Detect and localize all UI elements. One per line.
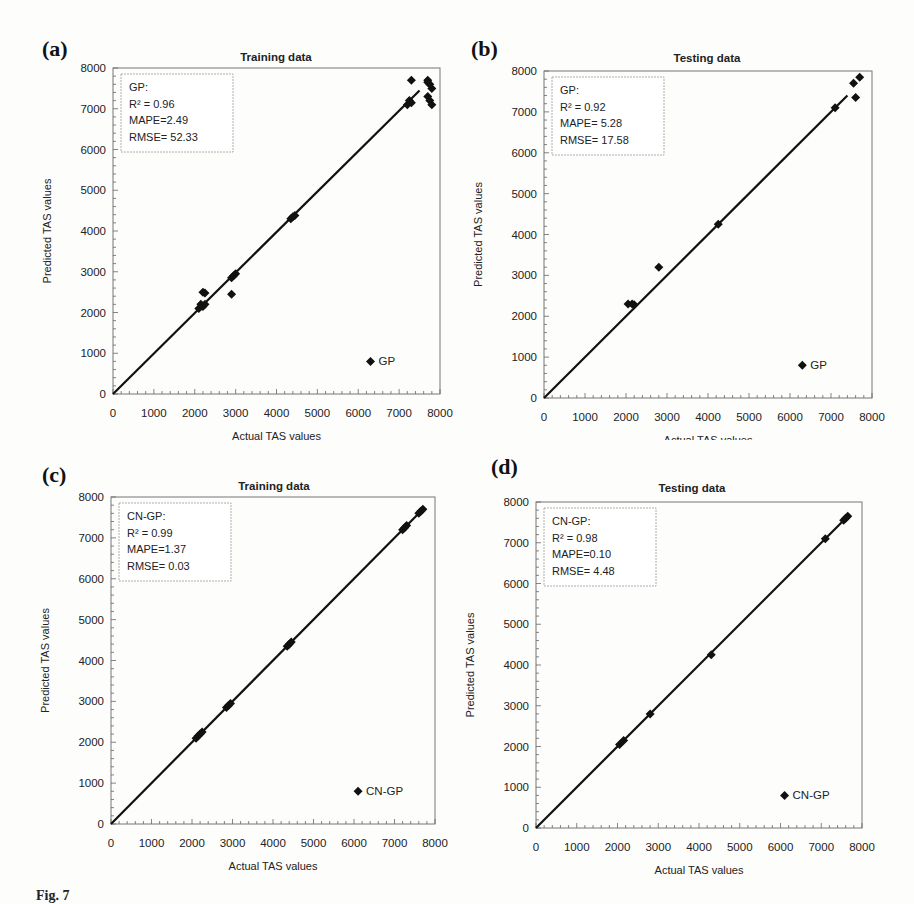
- x-tick-label: 1000: [564, 841, 590, 853]
- data-point: [849, 79, 858, 88]
- y-axis-label: Predicted TAS values: [472, 182, 484, 287]
- stats-r2: R² = 0.96: [129, 98, 175, 110]
- chart-panel-a: (a) Training data 0100020003000400050006…: [0, 0, 457, 440]
- figure-caption: Fig. 7: [36, 888, 69, 904]
- y-tick-label: 7000: [80, 103, 106, 115]
- x-tick-label: 7000: [382, 837, 408, 849]
- y-tick-label: 8000: [80, 62, 106, 74]
- x-tick-label: 2000: [613, 411, 639, 423]
- y-tick-label: 0: [531, 392, 537, 404]
- x-tick-label: 5000: [305, 407, 331, 419]
- x-tick-label: 3000: [645, 841, 671, 853]
- y-tick-label: 3000: [511, 269, 537, 281]
- scatter-plot: 0100020003000400050006000700080000100020…: [0, 440, 457, 880]
- data-point: [227, 290, 236, 299]
- x-tick-label: 5000: [727, 841, 753, 853]
- legend-label: CN-GP: [793, 789, 830, 801]
- y-tick-label: 6000: [78, 573, 104, 585]
- y-tick-label: 7000: [511, 106, 537, 118]
- x-tick-label: 7000: [818, 411, 844, 423]
- y-tick-label: 6000: [503, 578, 529, 590]
- y-tick-label: 0: [98, 818, 104, 830]
- y-tick-label: 1000: [80, 347, 106, 359]
- y-tick-label: 5000: [78, 614, 104, 626]
- x-tick-label: 4000: [260, 837, 286, 849]
- y-tick-label: 3000: [80, 266, 106, 278]
- scatter-plot: 0100020003000400050006000700080000100020…: [457, 440, 914, 880]
- x-tick-label: 6000: [768, 841, 794, 853]
- y-tick-label: 3000: [503, 700, 529, 712]
- x-tick-label: 6000: [345, 407, 371, 419]
- scatter-plot: 0100020003000400050006000700080000100020…: [457, 0, 914, 440]
- x-tick-label: 2000: [179, 837, 205, 849]
- y-axis-label: Predicted TAS values: [41, 178, 53, 283]
- legend-label: CN-GP: [366, 785, 403, 797]
- x-tick-label: 3000: [223, 407, 249, 419]
- y-tick-label: 1000: [78, 777, 104, 789]
- stats-mape: MAPE= 5.28: [560, 117, 622, 129]
- x-tick-label: 0: [533, 841, 539, 853]
- stats-r2: R² = 0.92: [560, 101, 606, 113]
- x-axis-label: Actual TAS values: [229, 860, 318, 872]
- stats-rmse: RMSE= 4.48: [552, 565, 615, 577]
- x-tick-label: 4000: [695, 411, 721, 423]
- x-tick-label: 1000: [572, 411, 598, 423]
- x-axis-label: Actual TAS values: [232, 430, 321, 440]
- y-tick-label: 4000: [80, 225, 106, 237]
- y-tick-label: 6000: [80, 144, 106, 156]
- x-tick-label: 2000: [605, 841, 631, 853]
- stats-mape: MAPE=1.37: [127, 543, 186, 555]
- legend-label: GP: [379, 355, 396, 367]
- chart-panel-b: (b) Testing data 01000200030004000500060…: [457, 0, 914, 440]
- data-point: [855, 73, 864, 82]
- stats-mape: MAPE=0.10: [552, 548, 611, 560]
- stats-rmse: RMSE= 0.03: [127, 560, 190, 572]
- stats-mape: MAPE=2.49: [129, 114, 188, 126]
- legend-marker-icon: [354, 787, 363, 796]
- x-tick-label: 3000: [220, 837, 246, 849]
- y-tick-label: 4000: [503, 659, 529, 671]
- x-tick-label: 0: [108, 837, 114, 849]
- stats-r2: R² = 0.98: [552, 532, 598, 544]
- y-tick-label: 6000: [511, 147, 537, 159]
- x-tick-label: 3000: [654, 411, 680, 423]
- x-axis-label: Actual TAS values: [655, 864, 744, 876]
- y-tick-label: 2000: [78, 736, 104, 748]
- data-point: [407, 76, 416, 85]
- y-axis-label: Predicted TAS values: [464, 612, 476, 717]
- y-tick-label: 7000: [503, 537, 529, 549]
- x-tick-label: 1000: [139, 837, 165, 849]
- x-tick-label: 0: [110, 407, 116, 419]
- legend-marker-icon: [780, 791, 789, 800]
- x-tick-label: 4000: [264, 407, 290, 419]
- stats-model-label: CN-GP:: [552, 515, 591, 527]
- y-tick-label: 0: [523, 822, 529, 834]
- y-tick-label: 5000: [503, 618, 529, 630]
- data-point: [851, 93, 860, 102]
- y-tick-label: 1000: [503, 781, 529, 793]
- x-tick-label: 7000: [808, 841, 834, 853]
- stats-r2: R² = 0.99: [127, 527, 173, 539]
- y-axis-label: Predicted TAS values: [39, 608, 51, 713]
- y-tick-label: 2000: [511, 310, 537, 322]
- y-tick-label: 3000: [78, 695, 104, 707]
- x-tick-label: 0: [541, 411, 547, 423]
- stats-rmse: RMSE= 17.58: [560, 134, 629, 146]
- stats-model-label: CN-GP:: [127, 510, 166, 522]
- stats-model-label: GP:: [560, 84, 579, 96]
- x-tick-label: 8000: [859, 411, 885, 423]
- scatter-plot: 0100020003000400050006000700080000100020…: [0, 0, 457, 440]
- y-tick-label: 0: [100, 388, 106, 400]
- legend-marker-icon: [366, 357, 375, 366]
- y-tick-label: 8000: [511, 65, 537, 77]
- y-tick-label: 8000: [503, 496, 529, 508]
- y-tick-label: 2000: [80, 307, 106, 319]
- chart-panel-c: (c) Training data 0100020003000400050006…: [0, 440, 457, 880]
- x-tick-label: 6000: [777, 411, 803, 423]
- x-tick-label: 8000: [422, 837, 448, 849]
- y-tick-label: 7000: [78, 532, 104, 544]
- data-point: [707, 650, 716, 659]
- chart-panel-d: (d) Testing data 01000200030004000500060…: [457, 440, 914, 880]
- y-tick-label: 4000: [78, 655, 104, 667]
- y-tick-label: 5000: [511, 188, 537, 200]
